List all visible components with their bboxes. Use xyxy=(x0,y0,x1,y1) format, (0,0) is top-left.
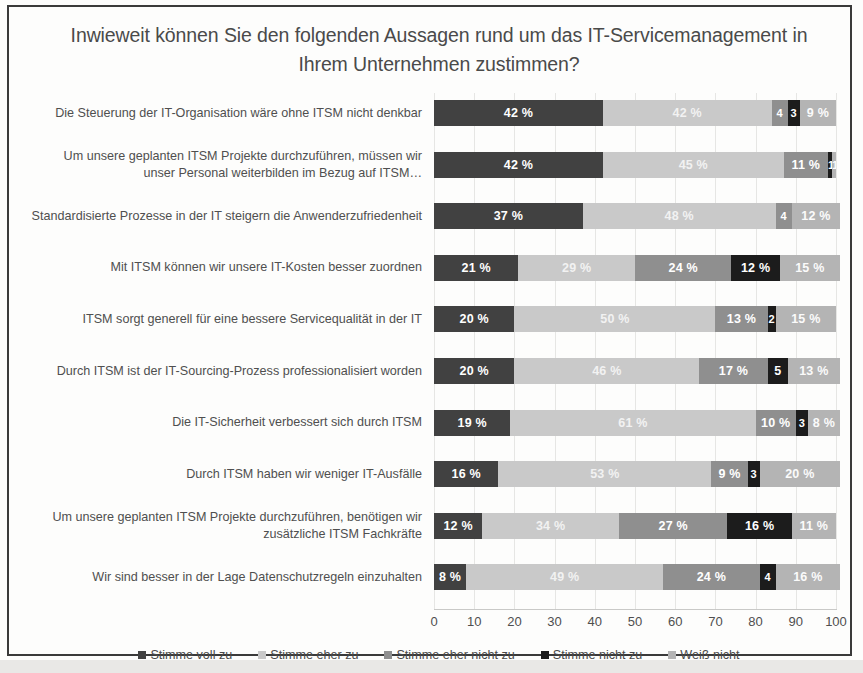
bar-segment-label: 10 % xyxy=(756,410,796,436)
legend-swatch-icon xyxy=(384,651,392,659)
gridline xyxy=(836,93,837,609)
bar-segment: 9 % xyxy=(711,461,747,487)
bar-segment-label: 15 % xyxy=(776,306,836,332)
bar-segment: 27 % xyxy=(619,513,728,539)
bar-segment: 10 % xyxy=(756,410,796,436)
bar-segment-label: 24 % xyxy=(635,255,731,281)
category-label: Die Steuerung der IT-Organisation wäre o… xyxy=(29,105,422,122)
bar-segment-label: 20 % xyxy=(434,306,514,332)
chart-title: Inwieweit können Sie den folgenden Aussa… xyxy=(69,21,809,79)
category-label: Die IT-Sicherheit verbessert sich durch … xyxy=(29,414,422,431)
x-tick-label: 80 xyxy=(741,614,771,629)
bar-row: 42 %45 %11 %11 xyxy=(434,152,836,178)
bar-segment-label: 9 % xyxy=(711,461,747,487)
bar-segment: 4 xyxy=(772,100,788,126)
bar-segment-label: 49 % xyxy=(466,564,663,590)
bar-segment-label: 61 % xyxy=(510,410,755,436)
bar-segment-label: 8 % xyxy=(434,564,466,590)
bar-segment: 8 % xyxy=(808,410,840,436)
bar-segment-label: 16 % xyxy=(727,513,791,539)
bar-segment: 4 xyxy=(760,564,776,590)
bar-segment-label: 21 % xyxy=(434,255,518,281)
bar-segment-label: 42 % xyxy=(603,100,772,126)
x-tick-label: 100 xyxy=(821,614,851,629)
bar-row: 16 %53 %9 %320 % xyxy=(434,461,836,487)
bar-segment: 3 xyxy=(796,410,808,436)
bar-segment: 16 % xyxy=(434,461,498,487)
bar-segment-label: 11 % xyxy=(784,152,828,178)
bar-segment: 20 % xyxy=(760,461,840,487)
x-tick-label: 60 xyxy=(660,614,690,629)
bar-segment-label: 3 xyxy=(796,410,808,436)
bar-segment: 12 % xyxy=(434,513,482,539)
bar-segment: 15 % xyxy=(780,255,840,281)
bar-row: 21 %29 %24 %12 %15 % xyxy=(434,255,836,281)
bar-segment-label: 9 % xyxy=(800,100,836,126)
bar-segment: 12 % xyxy=(731,255,779,281)
bar-segment-label: 20 % xyxy=(434,358,514,384)
bar-segment: 46 % xyxy=(514,358,699,384)
bar-segment-label: 13 % xyxy=(715,306,767,332)
bar-segment: 61 % xyxy=(510,410,755,436)
bar-row: 8 %49 %24 %416 % xyxy=(434,564,836,590)
bar-segment: 21 % xyxy=(434,255,518,281)
x-tick-label: 50 xyxy=(620,614,650,629)
bar-segment: 48 % xyxy=(583,203,776,229)
x-axis-tick-labels: 0102030405060708090100 xyxy=(434,614,836,634)
bar-segment-label: 5 xyxy=(768,358,788,384)
bar-segment: 50 % xyxy=(514,306,715,332)
bar-segment: 20 % xyxy=(434,358,514,384)
category-label: Um unsere geplanten ITSM Projekte durchz… xyxy=(29,148,422,182)
bar-segment-label: 42 % xyxy=(434,100,603,126)
bar-segment: 12 % xyxy=(792,203,840,229)
bar-segment-label: 12 % xyxy=(792,203,840,229)
x-tick-label: 40 xyxy=(580,614,610,629)
bar-segment-label: 4 xyxy=(760,564,776,590)
bar-segment-label: 3 xyxy=(788,100,800,126)
bar-segment-label: 11 % xyxy=(792,513,836,539)
bar-segment: 19 % xyxy=(434,410,510,436)
x-tick-label: 70 xyxy=(700,614,730,629)
x-tick-label: 20 xyxy=(499,614,529,629)
bar-row: 12 %34 %27 %16 %11 % xyxy=(434,513,836,539)
bar-segment: 2 xyxy=(768,306,776,332)
bar-segment-label: 4 xyxy=(772,100,788,126)
bar-segment: 34 % xyxy=(482,513,619,539)
bar-segment-label: 8 % xyxy=(808,410,840,436)
bar-row: 20 %50 %13 %215 % xyxy=(434,306,836,332)
bar-segment: 24 % xyxy=(635,255,731,281)
bar-segment: 24 % xyxy=(663,564,759,590)
bar-segment-label: 20 % xyxy=(760,461,840,487)
x-tick-label: 0 xyxy=(419,614,449,629)
bar-segment-label: 37 % xyxy=(434,203,583,229)
bar-segment: 42 % xyxy=(434,152,603,178)
bar-segment: 20 % xyxy=(434,306,514,332)
bar-segment: 16 % xyxy=(727,513,791,539)
bar-segment-label: 3 xyxy=(748,461,760,487)
bar-segment: 3 xyxy=(748,461,760,487)
bar-segment: 42 % xyxy=(434,100,603,126)
bar-segment: 15 % xyxy=(776,306,836,332)
bar-segment-label: 48 % xyxy=(583,203,776,229)
x-tick-label: 10 xyxy=(459,614,489,629)
bar-segment: 45 % xyxy=(603,152,784,178)
bar-segment-label: 45 % xyxy=(603,152,784,178)
bar-segment: 13 % xyxy=(788,358,840,384)
bar-segment-label: 16 % xyxy=(434,461,498,487)
category-label: Durch ITSM haben wir weniger IT-Ausfälle xyxy=(29,466,422,483)
bar-segment-label: 15 % xyxy=(780,255,840,281)
bar-segment: 29 % xyxy=(518,255,635,281)
bar-segment-label: 2 xyxy=(768,306,776,332)
plot-area: 42 %42 %439 %42 %45 %11 %1137 %48 %412 %… xyxy=(434,93,836,609)
bar-segment: 9 % xyxy=(800,100,836,126)
bar-segment-label: 4 xyxy=(776,203,792,229)
chart-frame: Inwieweit können Sie den folgenden Aussa… xyxy=(7,5,852,656)
bar-segment-label: 17 % xyxy=(699,358,767,384)
bar-segment-label: 29 % xyxy=(518,255,635,281)
category-label: Standardisierte Prozesse in der IT steig… xyxy=(29,208,422,225)
bar-segment-label: 53 % xyxy=(498,461,711,487)
bar-segment-label: 46 % xyxy=(514,358,699,384)
bar-segment-label: 12 % xyxy=(731,255,779,281)
category-label: Durch ITSM ist der IT-Sourcing-Prozess p… xyxy=(29,363,422,380)
bar-segment: 13 % xyxy=(715,306,767,332)
